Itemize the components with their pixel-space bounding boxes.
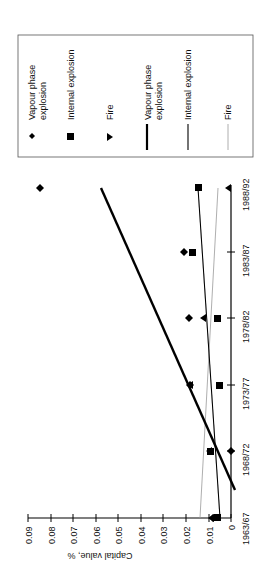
tick-label: 0.09: [24, 526, 34, 544]
legend-square-icon: [67, 133, 74, 140]
legend-label: Internal explosion: [183, 49, 193, 120]
axis-title: Capital value, %: [67, 551, 132, 561]
marker-square: [216, 382, 223, 389]
tick-label: 0.06: [92, 526, 102, 544]
category-label: 1978/82: [241, 310, 251, 343]
marker-square: [214, 315, 221, 322]
rotated-chart: Vapour phase explosion Internal explosio…: [0, 0, 275, 580]
legend-label: Vapour phase: [143, 65, 153, 120]
legend-label: Fire: [223, 105, 233, 121]
legend-label: Internal explosion: [66, 49, 76, 120]
tick-label: 0.08: [47, 526, 57, 544]
category-label: 1973/77: [241, 377, 251, 410]
tick-label: 0.05: [114, 526, 124, 544]
tick-label: 0.04: [137, 526, 147, 544]
tick-label: 0.02: [182, 526, 192, 544]
tick-label: 0: [227, 525, 237, 530]
legend-label: explosion: [38, 82, 48, 120]
legend-label: Fire: [105, 105, 115, 121]
trendline-internal-explosion: [198, 188, 220, 518]
legend-label: Vapour phase: [27, 65, 37, 120]
marker-square: [214, 514, 221, 521]
marker-diamond: [185, 314, 193, 322]
tick-label: 0.03: [159, 526, 169, 544]
legend-label: explosion: [154, 82, 164, 120]
marker-diamond: [227, 447, 235, 455]
marker-diamond: [36, 184, 44, 192]
marker-square: [195, 184, 202, 191]
legend-box: [18, 35, 253, 157]
marker-triangle: [200, 314, 206, 322]
category-label: 1968/72: [241, 443, 251, 476]
trendline-vapour-phase-explosion: [101, 188, 235, 490]
category-label: 1983/87: [241, 244, 251, 277]
category-label: 1963/67: [241, 512, 251, 545]
tick-label: 0.01: [205, 526, 215, 544]
marker-diamond: [180, 248, 188, 256]
tick-label: 0.07: [69, 526, 79, 544]
marker-triangle: [225, 184, 231, 192]
marker-square: [189, 249, 196, 256]
category-label: 1988/92: [241, 178, 251, 211]
